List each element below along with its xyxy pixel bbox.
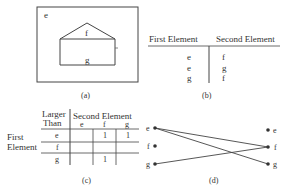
panel-a: e f g (a) (37, 7, 138, 100)
row1-first: e (187, 52, 191, 62)
label-left-f: f (147, 142, 150, 151)
corner-label-than: Than (43, 118, 62, 128)
label-right-e: e (273, 126, 277, 135)
edge-g-f (155, 147, 268, 164)
row-header-e: e (55, 131, 59, 140)
cell-g-f: 1 (103, 155, 107, 164)
node-left-f (153, 144, 157, 148)
label-f: f (85, 28, 88, 38)
edge-e-g (155, 128, 268, 164)
node-right-f (266, 145, 270, 149)
caption-d: (d) (209, 176, 219, 185)
label-right-g: g (273, 160, 277, 169)
panel-c: Larger Than Second Element e f g First E… (7, 109, 139, 185)
label-left-g: g (146, 160, 150, 169)
node-left-e (153, 126, 157, 130)
row-group-label-first: First (7, 132, 24, 142)
col-header-f: f (103, 120, 106, 129)
row-header-f: f (56, 143, 59, 152)
panel-d: e f g e f g (d) (146, 124, 277, 185)
row3-first: g (187, 73, 192, 83)
row-group-label-element: Element (7, 142, 37, 152)
node-left-g (153, 162, 157, 166)
col-header-e: e (80, 120, 84, 129)
row2-second: g (222, 63, 227, 73)
label-g: g (85, 55, 90, 65)
label-right-f: f (274, 143, 277, 152)
label-e: e (44, 10, 48, 20)
diagram-canvas: e f g (a) First Element Second Element e… (0, 0, 285, 189)
node-right-g (266, 162, 270, 166)
row-header-g: g (55, 155, 59, 164)
row3-second: f (222, 73, 225, 83)
cell-e-f: 1 (103, 131, 107, 140)
caption-a: (a) (81, 91, 90, 100)
caption-c: (c) (82, 176, 91, 185)
node-right-e (266, 128, 270, 132)
cell-e-g: 1 (126, 131, 130, 140)
row2-first: e (187, 63, 191, 73)
label-left-e: e (146, 124, 150, 133)
row1-second: f (222, 52, 225, 62)
edge-e-f (155, 128, 268, 147)
header-first-element: First Element (149, 34, 198, 44)
outer-set-e (37, 7, 138, 82)
header-second-element: Second Element (216, 34, 275, 44)
caption-b: (b) (202, 91, 212, 100)
panel-b: First Element Second Element e f e g g f… (148, 34, 280, 100)
col-header-g: g (125, 120, 129, 129)
